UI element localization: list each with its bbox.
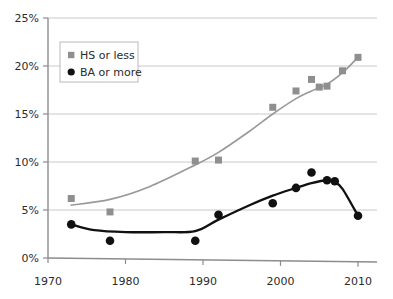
chart-container: 0%5%10%15%20%25% 19701980199020002010 HS… xyxy=(0,0,393,299)
data-point-hs-or-less xyxy=(316,84,323,91)
data-point-ba-or-more xyxy=(268,199,277,208)
data-point-hs-or-less xyxy=(192,158,199,165)
data-point-hs-or-less xyxy=(324,83,331,90)
x-axis-tick-labels: 19701980199020002010 xyxy=(34,275,372,288)
legend-label-ba-or-more: BA or more xyxy=(80,66,142,79)
scatter-plot: 0%5%10%15%20%25% 19701980199020002010 HS… xyxy=(0,0,393,299)
data-point-ba-or-more xyxy=(307,168,316,177)
x-axis-line xyxy=(48,258,377,262)
data-point-hs-or-less xyxy=(355,54,362,61)
data-point-ba-or-more xyxy=(214,211,223,220)
y-tick-label-10%: 10% xyxy=(15,156,39,169)
x-tick-label-1970: 1970 xyxy=(34,275,62,288)
data-point-ba-or-more xyxy=(292,184,301,193)
data-point-hs-or-less xyxy=(293,87,300,94)
circle-marker xyxy=(68,68,75,75)
data-point-hs-or-less xyxy=(215,157,222,164)
trend-line-ba-or-more xyxy=(71,180,358,232)
series-data-points xyxy=(67,54,362,245)
data-point-ba-or-more xyxy=(323,176,332,185)
data-point-ba-or-more xyxy=(67,220,76,229)
data-point-hs-or-less xyxy=(68,195,75,202)
y-tick-label-25%: 25% xyxy=(15,12,39,25)
data-point-hs-or-less xyxy=(269,104,276,111)
series-trend-lines xyxy=(71,57,358,232)
x-tick-label-1980: 1980 xyxy=(112,275,140,288)
y-tick-label-5%: 5% xyxy=(22,204,39,217)
y-tick-label-20%: 20% xyxy=(15,60,39,73)
square-marker xyxy=(68,52,74,58)
data-point-ba-or-more xyxy=(191,236,200,245)
data-point-ba-or-more xyxy=(354,211,363,220)
y-tick-label-15%: 15% xyxy=(15,108,39,121)
chart-legend: HS or lessBA or more xyxy=(60,42,142,82)
x-tick-label-2000: 2000 xyxy=(267,275,295,288)
data-point-ba-or-more xyxy=(330,177,339,186)
y-tick-label-0%: 0% xyxy=(22,252,39,265)
y-axis-tick-labels: 0%5%10%15%20%25% xyxy=(15,12,39,265)
x-tick-label-1990: 1990 xyxy=(189,275,217,288)
data-point-hs-or-less xyxy=(308,76,315,83)
data-point-ba-or-more xyxy=(106,236,115,245)
data-point-hs-or-less xyxy=(107,208,114,215)
data-point-hs-or-less xyxy=(339,67,346,74)
legend-label-hs-or-less: HS or less xyxy=(80,49,135,62)
x-tick-label-2010: 2010 xyxy=(344,275,372,288)
